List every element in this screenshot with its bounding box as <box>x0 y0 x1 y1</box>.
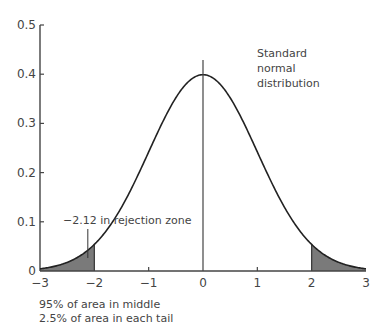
x-tick-label: −2 <box>85 276 103 290</box>
y-tick-label: 0.1 <box>17 215 36 229</box>
caption-line-middle: 95% of area in middle <box>39 298 173 312</box>
title-line-2: normal <box>257 62 296 75</box>
x-tick-label: −1 <box>140 276 158 290</box>
y-tick-label: 0.3 <box>17 116 36 130</box>
x-tick-label: 0 <box>199 276 207 290</box>
title-line-3: distribution <box>257 77 320 90</box>
title-line-1: Standard <box>257 47 307 60</box>
chart-caption: 95% of area in middle 2.5% of area in ea… <box>39 298 173 326</box>
y-tick-label: 0.5 <box>17 18 36 32</box>
rejection-zone-annotation: −2.12 in rejection zone <box>63 214 192 227</box>
caption-line-tails: 2.5% of area in each tail <box>39 312 173 326</box>
x-tick-label: 1 <box>254 276 262 290</box>
x-tick-label: 3 <box>362 276 370 290</box>
x-tick-label: −3 <box>31 276 49 290</box>
x-tick-label: 2 <box>308 276 316 290</box>
y-tick-label: 0.4 <box>17 67 36 81</box>
normal-distribution-chart: 00.10.20.30.40.5−3−2−10123 Standard norm… <box>0 0 387 335</box>
y-tick-label: 0.2 <box>17 166 36 180</box>
